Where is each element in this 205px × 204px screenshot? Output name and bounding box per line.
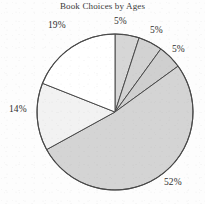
slice-label-3: 5%	[172, 44, 185, 54]
slice-label-5: 14%	[9, 104, 27, 114]
slice-label-1: 5%	[114, 16, 127, 26]
slice-label-2: 5%	[150, 25, 163, 35]
pie-chart-figure: Book Choices by Ages 5% 5% 5% 52% 14% 19…	[0, 0, 205, 204]
pie-chart-graphic	[0, 0, 205, 204]
slice-label-6: 19%	[48, 20, 66, 30]
slice-label-4: 52%	[164, 177, 182, 187]
pie-slices-group	[37, 34, 193, 190]
